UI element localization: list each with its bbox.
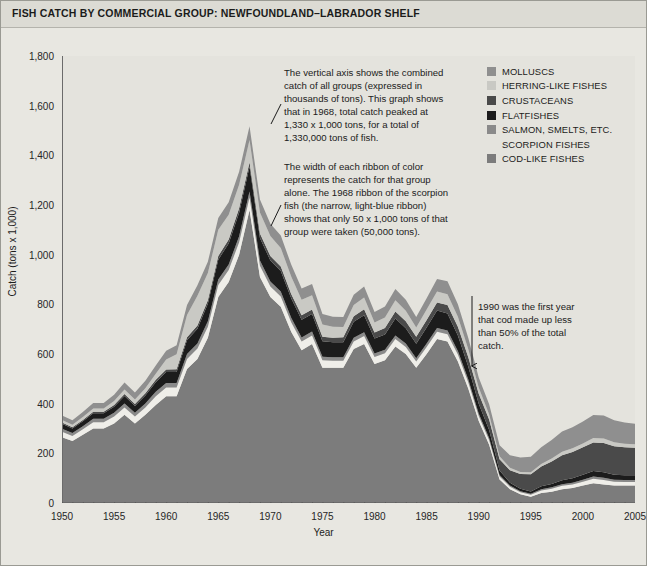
legend-label-4: SALMON, SMELTS, ETC. <box>502 124 612 135</box>
x-axis-tick-1970: 1970 <box>259 511 281 522</box>
legend-swatch-icon-5 <box>487 140 496 149</box>
legend-item-1[interactable]: HERRING-LIKE FISHES <box>487 79 639 94</box>
y-axis-tick-1,600: 1,600 <box>29 100 54 111</box>
x-axis-tick-1995: 1995 <box>520 511 542 522</box>
legend-item-6[interactable]: COD-LIKE FISHES <box>487 152 639 167</box>
x-axis-tick-2000: 2000 <box>572 511 594 522</box>
chart-page: FISH CATCH BY COMMERCIAL GROUP: NEWFOUND… <box>0 0 647 566</box>
legend-swatch-icon-4 <box>487 125 496 134</box>
annotation-vertical-axis-text: The vertical axis shows the combined cat… <box>284 66 450 145</box>
y-axis-tick-1,800: 1,800 <box>29 51 54 62</box>
y-axis-tick-0: 0 <box>48 498 54 509</box>
legend-swatch-icon-1 <box>487 81 496 90</box>
legend-swatch-icon-0 <box>487 67 496 76</box>
legend-item-3[interactable]: FLATFISHES <box>487 108 639 123</box>
annotation-ribbon-width-text: The width of each ribbon of color repres… <box>284 160 452 239</box>
y-axis-tick-600: 600 <box>37 349 54 360</box>
legend-swatch-icon-6 <box>487 154 496 163</box>
x-axis-tick-1955: 1955 <box>103 511 125 522</box>
y-axis-tick-800: 800 <box>37 299 54 310</box>
legend-label-1: HERRING-LIKE FISHES <box>502 80 607 91</box>
legend-item-0[interactable]: MOLLUSCS <box>487 64 639 79</box>
annotation-ribbon-width: The width of each ribbon of color repres… <box>284 160 452 239</box>
title-bar: FISH CATCH BY COMMERCIAL GROUP: NEWFOUND… <box>0 0 647 28</box>
x-axis-tick-1990: 1990 <box>468 511 490 522</box>
x-axis-tick-2005: 2005 <box>624 511 646 522</box>
y-axis-tick-400: 400 <box>37 398 54 409</box>
legend-label-0: MOLLUSCS <box>502 66 554 77</box>
annotation-1990-cod: 1990 was the first year that cod made up… <box>478 300 578 352</box>
page-title: FISH CATCH BY COMMERCIAL GROUP: NEWFOUND… <box>12 7 420 19</box>
legend-swatch-icon-3 <box>487 111 496 120</box>
annotation-vertical-axis: The vertical axis shows the combined cat… <box>284 66 450 145</box>
legend-label-3: FLATFISHES <box>502 110 559 121</box>
legend-item-4[interactable]: SALMON, SMELTS, ETC. <box>487 122 639 137</box>
legend-label-5: SCORPION FISHES <box>502 139 590 150</box>
legend-swatch-icon-2 <box>487 96 496 105</box>
x-axis-tick-1985: 1985 <box>416 511 438 522</box>
y-axis-tick-1,000: 1,000 <box>29 249 54 260</box>
y-axis-tick-1,200: 1,200 <box>29 200 54 211</box>
legend-label-2: CRUSTACEANS <box>502 95 573 106</box>
x-axis-label: Year <box>0 527 647 538</box>
legend-label-6: COD-LIKE FISHES <box>502 153 584 164</box>
x-axis-tick-1960: 1960 <box>155 511 177 522</box>
y-axis-tick-1,400: 1,400 <box>29 150 54 161</box>
legend-item-2[interactable]: CRUSTACEANS <box>487 93 639 108</box>
y-axis-tick-200: 200 <box>37 448 54 459</box>
x-axis-tick-labels: 1950195519601965197019751980198519901995… <box>62 503 635 525</box>
x-axis-tick-1965: 1965 <box>207 511 229 522</box>
legend-item-5[interactable]: SCORPION FISHES <box>487 137 639 152</box>
x-axis-tick-1975: 1975 <box>311 511 333 522</box>
annotation-1990-cod-text: 1990 was the first year that cod made up… <box>478 300 578 352</box>
x-axis-tick-1950: 1950 <box>51 511 73 522</box>
legend: MOLLUSCSHERRING-LIKE FISHESCRUSTACEANSFL… <box>487 64 639 166</box>
x-axis-tick-1980: 1980 <box>363 511 385 522</box>
y-axis-label: Catch (tons x 1,000) <box>7 162 18 342</box>
